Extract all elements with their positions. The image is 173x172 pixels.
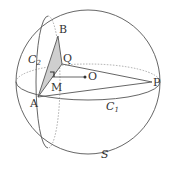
- label-o: O: [88, 70, 97, 83]
- label-s: S: [101, 148, 109, 161]
- label-b: B: [59, 23, 67, 36]
- point-o: [84, 76, 87, 79]
- segment-qp: [62, 64, 152, 82]
- label-a: A: [29, 97, 39, 110]
- label-q: Q: [63, 52, 72, 65]
- sphere-diagram: B Q O P M A C2 C1 S: [0, 0, 173, 172]
- label-c1: C1: [106, 100, 119, 114]
- label-m: M: [51, 81, 62, 94]
- label-p: P: [153, 76, 161, 89]
- label-c2: C2: [28, 53, 41, 67]
